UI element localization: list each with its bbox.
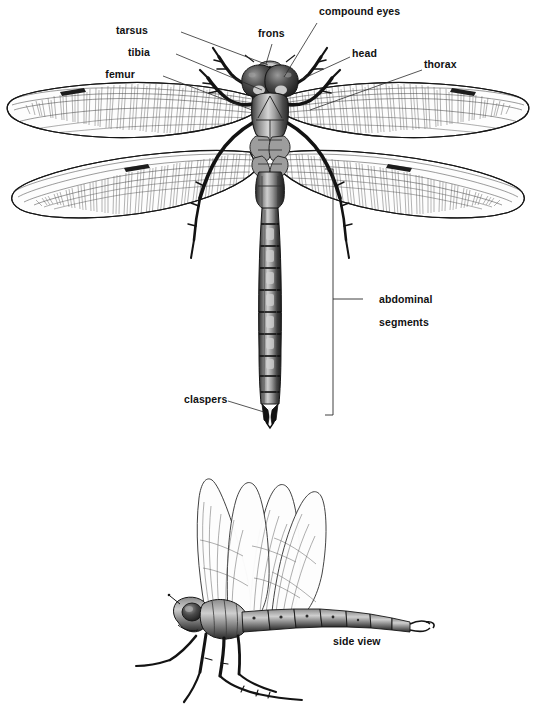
- label-frons: frons: [258, 28, 285, 40]
- label-side-view: side view: [333, 636, 381, 648]
- dragonfly-anatomy-illustration: [0, 0, 536, 704]
- label-compound-eyes: compound eyes: [319, 6, 400, 18]
- side-compound-eye: [182, 603, 202, 621]
- label-claspers: claspers: [184, 394, 227, 406]
- label-tibia: tibia: [80, 47, 150, 59]
- figure-canvas: tarsus tibia femur frons compound eyes h…: [0, 0, 536, 704]
- label-abdominal-segments: abdominal segments: [367, 282, 432, 340]
- label-abdominal-segments-line2: segments: [379, 316, 429, 328]
- abdominal-segment-1-2: [256, 172, 285, 210]
- label-tarsus: tarsus: [78, 25, 148, 37]
- label-head: head: [352, 48, 377, 60]
- pterothorax: [250, 136, 290, 177]
- label-femur: femur: [65, 69, 135, 81]
- label-thorax: thorax: [424, 59, 457, 71]
- label-abdominal-segments-line1: abdominal: [379, 293, 432, 305]
